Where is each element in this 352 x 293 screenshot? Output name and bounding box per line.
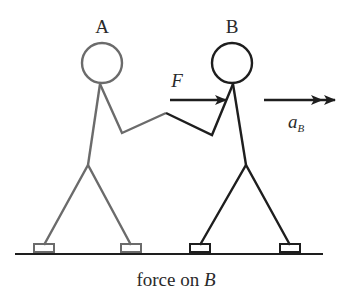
caption: force on B	[136, 269, 216, 290]
person-a-left-foot	[34, 244, 54, 252]
person-a-head	[82, 43, 122, 83]
label-force: F	[170, 70, 183, 91]
label-acceleration-main: a	[288, 111, 298, 132]
label-person-b: B	[226, 16, 239, 37]
acceleration-arrow	[264, 95, 335, 105]
person-b-left-foot	[190, 244, 210, 252]
caption-variable: B	[204, 269, 216, 290]
caption-text: force on	[136, 269, 204, 290]
person-a-torso	[88, 84, 100, 165]
label-acceleration: aB	[288, 111, 305, 134]
person-b-arm	[166, 84, 233, 135]
person-a	[34, 43, 166, 252]
diagram-canvas: A B F aB force on B	[0, 0, 352, 293]
label-acceleration-subscript: B	[297, 122, 304, 134]
person-a-legs	[44, 165, 131, 245]
person-b-head	[212, 43, 252, 83]
label-person-a: A	[95, 16, 109, 37]
person-b	[166, 43, 300, 252]
person-a-arm	[100, 84, 166, 133]
person-b-torso	[233, 84, 246, 165]
person-b-legs	[200, 165, 290, 245]
person-b-right-foot	[280, 244, 300, 252]
person-a-right-foot	[121, 244, 141, 252]
